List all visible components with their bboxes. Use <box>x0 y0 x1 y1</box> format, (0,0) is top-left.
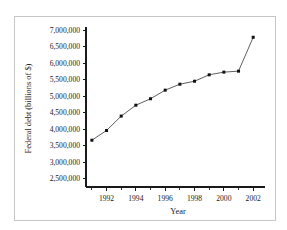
y-tick-label: 7,000,000 <box>50 26 81 35</box>
x-tick-label: 1992 <box>99 194 114 203</box>
data-series-line <box>92 37 253 140</box>
x-axis-tick-labels: 199219941996199820002002 <box>99 194 261 203</box>
x-tick-label: 2000 <box>216 194 231 203</box>
y-tick-label: 3,500,000 <box>50 141 81 150</box>
data-point <box>105 129 108 132</box>
y-tick-label: 4,000,000 <box>50 125 81 134</box>
x-tick-label: 1996 <box>158 194 173 203</box>
y-tick-label: 3,000,000 <box>50 158 81 167</box>
y-tick-label: 6,500,000 <box>50 42 81 51</box>
x-tick-label: 2002 <box>246 194 261 203</box>
data-point <box>134 104 137 107</box>
y-tick-label: 5,500,000 <box>50 75 81 84</box>
data-series-markers <box>90 36 254 142</box>
y-axis-tick-labels: 2,500,0003,000,0003,500,0004,000,0004,50… <box>50 26 81 184</box>
y-tick-label: 5,000,000 <box>50 92 81 101</box>
data-point <box>193 80 196 83</box>
y-axis-title: Federal debt (billions of $) <box>24 63 33 153</box>
data-point <box>222 71 225 74</box>
y-tick-label: 2,500,000 <box>50 174 81 183</box>
data-point <box>252 36 255 39</box>
caption-stub <box>6 1 126 11</box>
data-point <box>90 139 93 142</box>
y-tick-label: 6,000,000 <box>50 59 81 68</box>
figure-frame: 2,500,0003,000,0003,500,0004,000,0004,50… <box>14 16 276 221</box>
data-point <box>164 89 167 92</box>
x-tick-label: 1998 <box>187 194 202 203</box>
x-axis-ticks <box>92 187 253 191</box>
x-tick-label: 1994 <box>128 194 143 203</box>
x-axis-title: Year <box>170 207 186 216</box>
data-point <box>120 115 123 118</box>
y-tick-label: 4,500,000 <box>50 108 81 117</box>
figure-root: 2,500,0003,000,0003,500,0004,000,0004,50… <box>0 0 287 230</box>
data-point <box>208 73 211 76</box>
line-chart: 2,500,0003,000,0003,500,0004,000,0004,50… <box>15 17 275 220</box>
data-point <box>178 83 181 86</box>
data-point <box>237 70 240 73</box>
data-point <box>149 97 152 100</box>
